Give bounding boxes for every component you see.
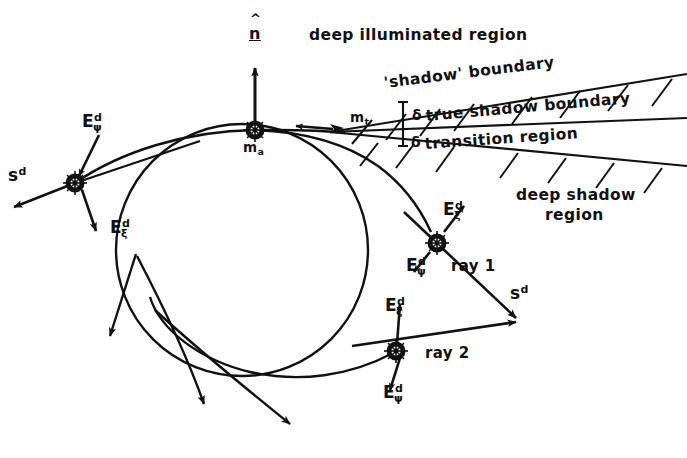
deep-shadow-region-label-line2: region bbox=[545, 207, 604, 224]
surface-creeping-ray bbox=[75, 130, 431, 377]
E-xi-ray2-subscript: ξ bbox=[396, 305, 403, 318]
E-psi-ray1-subscript: ψ bbox=[417, 265, 426, 278]
attachment-point-base: m bbox=[243, 139, 257, 155]
s-d-ray1-base: s bbox=[510, 283, 521, 303]
figure-linework bbox=[0, 0, 687, 458]
E-psi-ray1-label: Edψ bbox=[406, 256, 426, 277]
cylinder-outline bbox=[116, 124, 368, 376]
attachment-point-subscript: a bbox=[257, 146, 264, 157]
left-ray-vectors bbox=[14, 135, 200, 231]
E-xi-left-label: Edξ bbox=[110, 218, 127, 239]
tangent-point-subscript: t bbox=[364, 116, 369, 127]
E-psi-left-subscript: ψ bbox=[93, 121, 102, 134]
deep-illuminated-region-label: deep illuminated region bbox=[309, 27, 527, 44]
tangent-point-base: m bbox=[350, 109, 364, 125]
s-d-ray1-superscript: d bbox=[521, 283, 529, 296]
diffraction-shadow-boundary-figure: deep illuminated region 'shadow' boundar… bbox=[0, 0, 687, 458]
delta-lower-label: δ bbox=[411, 135, 421, 150]
s-d-left-superscript: d bbox=[19, 165, 27, 178]
attachment-point-label: ma bbox=[243, 140, 264, 157]
E-xi-left-subscript: ξ bbox=[121, 227, 128, 240]
E-xi-ray2-label: Edξ bbox=[385, 296, 402, 317]
E-xi-ray1-label: Edξ bbox=[443, 200, 460, 221]
E-psi-left-label: Edψ bbox=[82, 112, 102, 133]
delta-upper-label: δ bbox=[412, 108, 422, 123]
shed-diffracted-rays bbox=[110, 254, 290, 424]
E-xi-ray1-subscript: ξ bbox=[454, 209, 461, 222]
s-d-left-label: sd bbox=[8, 166, 26, 184]
E-psi-ray2-label: Edψ bbox=[383, 383, 403, 404]
s-d-ray1-label: sd bbox=[510, 284, 528, 302]
E-psi-ray2-subscript: ψ bbox=[394, 392, 403, 405]
deep-shadow-region-label-line1: deep shadow bbox=[516, 187, 636, 204]
tangent-point-label: mt bbox=[350, 110, 369, 127]
ray-1-label: ray 1 bbox=[451, 258, 496, 274]
s-d-left-base: s bbox=[8, 165, 19, 185]
normal-vector-label: n bbox=[249, 25, 261, 42]
normal-vector-hat-icon: ^ bbox=[250, 11, 261, 26]
ray-2-label: ray 2 bbox=[425, 345, 470, 361]
